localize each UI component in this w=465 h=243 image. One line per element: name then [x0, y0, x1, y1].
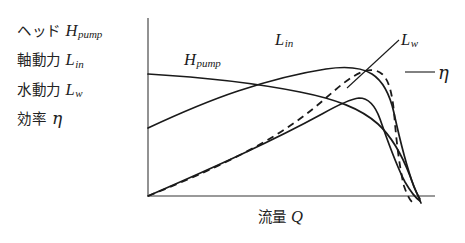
- curve-l-w: [148, 98, 420, 201]
- legend-item-head-label: ヘッド: [17, 23, 61, 39]
- curve-label-h-pump: Hpump: [184, 50, 221, 70]
- legend-item-head: ヘッドHpump: [17, 18, 147, 47]
- legend-item-water-power-label: 水動力: [17, 82, 61, 98]
- legend-item-water-power-subscript: w: [75, 87, 83, 99]
- leader-line-l-w: [347, 40, 399, 88]
- legend-item-efficiency-symbol: η: [46, 108, 62, 128]
- curve-label-h-pump-subscript: pump: [196, 57, 221, 69]
- x-axis-label: 流量Q: [258, 205, 303, 227]
- curve-label-l-w: Lw: [401, 30, 418, 50]
- x-axis-label-symbol: Q: [286, 207, 303, 226]
- legend-item-shaft-power-subscript: in: [75, 58, 84, 70]
- legend-item-shaft-power: 軸動力Lin: [17, 47, 147, 76]
- curve-label-l-in-symbol: L: [275, 30, 284, 49]
- legend-item-shaft-power-symbol: L: [61, 50, 75, 69]
- legend-item-head-symbol: H: [61, 21, 78, 40]
- legend-item-water-power: 水動力Lw: [17, 77, 147, 106]
- curve-label-h-pump-symbol: H: [184, 50, 196, 69]
- curve-h-pump: [148, 74, 421, 203]
- curve-label-l-w-symbol: L: [401, 30, 410, 49]
- pump-characteristic-figure: ヘッドHpump 軸動力Lin 水動力Lw 効率η Hpump Lin Lw η…: [0, 0, 465, 243]
- legend-item-head-subscript: pump: [77, 28, 102, 40]
- x-axis-label-jp: 流量: [258, 209, 286, 225]
- legend-item-efficiency-label: 効率: [17, 111, 46, 127]
- legend-item-water-power-symbol: L: [61, 80, 75, 99]
- curve-label-l-in-subscript: in: [284, 37, 293, 49]
- legend-item-shaft-power-label: 軸動力: [17, 52, 61, 68]
- curve-label-l-in: Lin: [275, 30, 293, 50]
- legend-item-efficiency: 効率η: [17, 106, 147, 132]
- curve-label-eta-symbol: η: [438, 62, 449, 83]
- curve-label-eta: η: [438, 62, 449, 83]
- curve-label-l-w-subscript: w: [410, 37, 418, 49]
- legend: ヘッドHpump 軸動力Lin 水動力Lw 効率η: [17, 18, 147, 132]
